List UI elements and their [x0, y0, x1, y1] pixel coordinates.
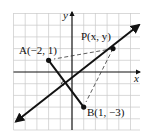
point-b: [81, 105, 86, 110]
point-p: [110, 46, 115, 51]
y-axis-label: y: [62, 9, 68, 21]
point-a: [46, 58, 51, 63]
point-p-label: P(x, y): [81, 30, 111, 43]
coordinate-diagram: x y A(−2, 1) B(1, −3) P(x, y): [0, 0, 150, 134]
point-b-label: B(1, −3): [87, 106, 125, 119]
x-axis-label: x: [133, 72, 139, 84]
point-a-label: A(−2, 1): [19, 44, 57, 57]
